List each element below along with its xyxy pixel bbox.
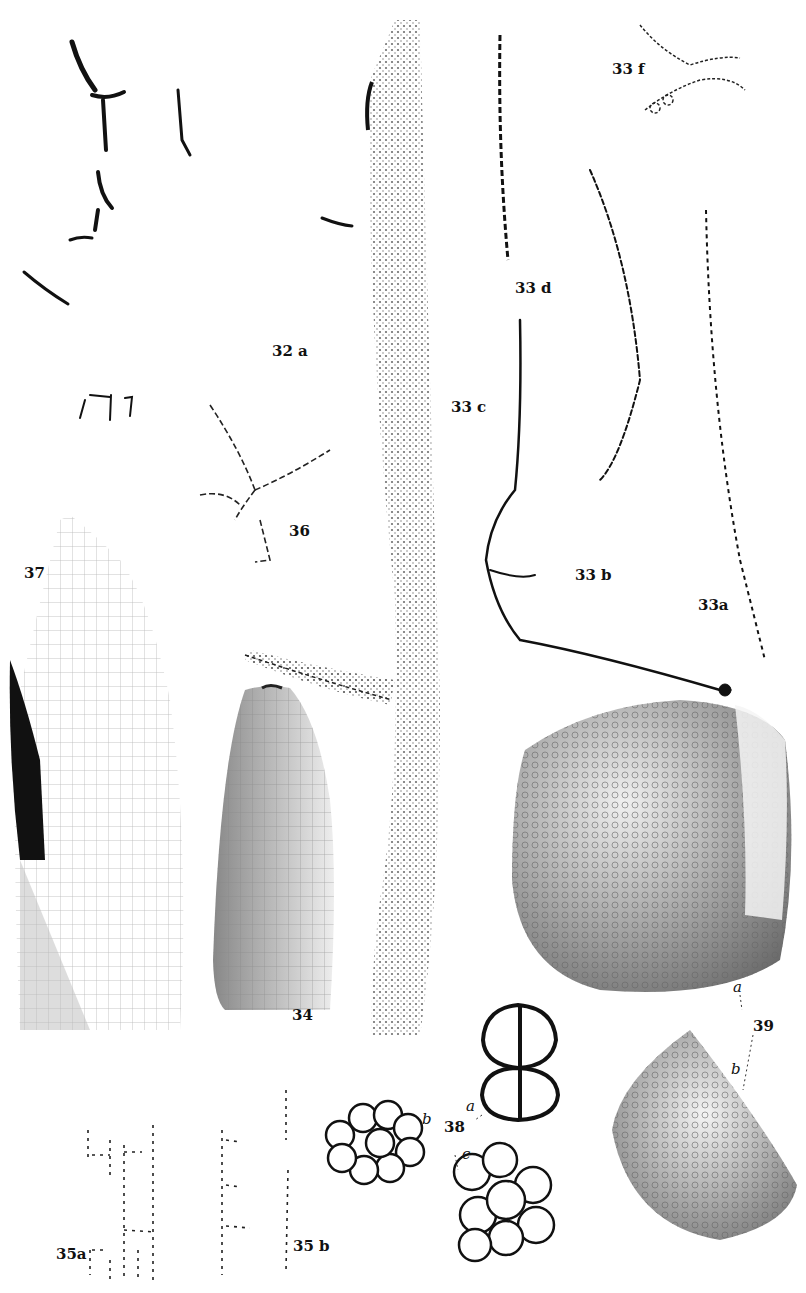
label-figure-36: 36 — [289, 522, 310, 540]
figure-33b-drawing — [486, 170, 731, 696]
figure-39a-drawing — [512, 700, 791, 992]
figure-33d-drawing — [500, 35, 508, 260]
label-figure-33c: 33 c — [451, 398, 486, 416]
label-figure-35b: 35 b — [293, 1237, 330, 1255]
figure-37-drawing — [10, 515, 184, 1030]
label-figure-37: 37 — [24, 564, 45, 582]
figure-32a-drawing — [24, 42, 352, 420]
label-figure-38a: a — [466, 1097, 475, 1115]
plate-drawings — [0, 0, 806, 1293]
figure-39b-drawing — [612, 1030, 797, 1240]
label-figure-38b: b — [422, 1110, 432, 1128]
illustration-plate: 32 a 33a 33 b 33 c 33 d 33 f 34 35a 35 b… — [0, 0, 806, 1293]
figure-34-drawing — [213, 686, 334, 1011]
label-figure-34: 34 — [292, 1006, 313, 1024]
label-figure-33b: 33 b — [575, 566, 612, 584]
figure-35-drawing — [88, 1090, 288, 1280]
figure-33a-drawing — [706, 210, 765, 660]
label-figure-39a: a — [733, 978, 742, 996]
label-figure-33d: 33 d — [515, 279, 552, 297]
label-figure-38c: c — [462, 1145, 470, 1163]
label-figure-33a: 33a — [698, 596, 729, 614]
figure-36-drawing — [200, 405, 330, 562]
label-figure-35a: 35a — [56, 1245, 87, 1263]
figure-38b-drawing — [326, 1101, 424, 1184]
figure-38a-drawing — [482, 1005, 558, 1120]
label-figure-39: 39 — [753, 1017, 774, 1035]
label-figure-39b: b — [731, 1060, 741, 1078]
label-figure-38: 38 — [444, 1118, 465, 1136]
label-figure-33f: 33 f — [612, 60, 645, 78]
label-figure-32a: 32 a — [272, 342, 308, 360]
figure-33f-drawing — [640, 25, 745, 113]
